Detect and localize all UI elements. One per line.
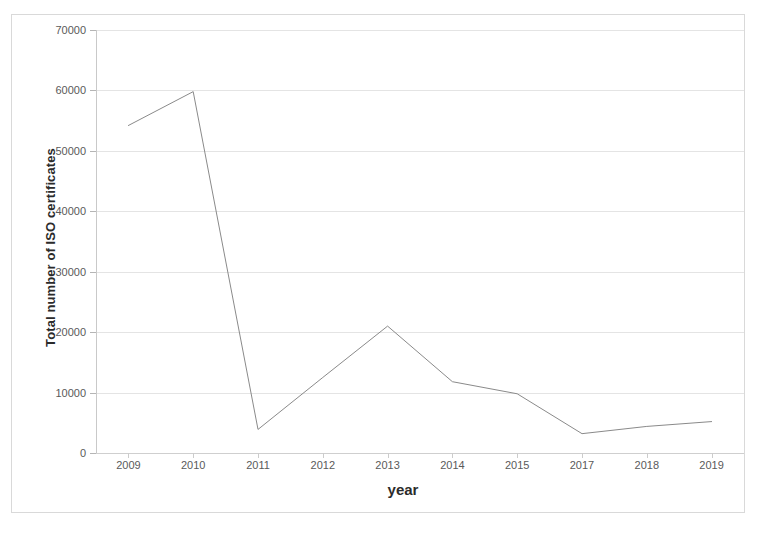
series-polyline-total-iso-certificates <box>128 92 711 434</box>
x-tick-label-2010: 2010 <box>158 459 228 471</box>
y-tick-label: 10000 <box>16 387 86 399</box>
x-tick-label-2017: 2017 <box>547 459 617 471</box>
x-tick-mark-2018 <box>647 453 648 458</box>
x-tick-label-2014: 2014 <box>417 459 487 471</box>
x-tick-mark-2011 <box>258 453 259 458</box>
x-tick-mark-2010 <box>193 453 194 458</box>
x-tick-mark-2015 <box>517 453 518 458</box>
y-axis-title: Total number of ISO certificates <box>43 88 58 408</box>
x-tick-mark-2017 <box>582 453 583 458</box>
y-tick-label: 60000 <box>16 84 86 96</box>
x-tick-mark-2009 <box>128 453 129 458</box>
y-tick-label: 50000 <box>16 145 86 157</box>
x-tick-label-2012: 2012 <box>288 459 358 471</box>
x-tick-label-2011: 2011 <box>223 459 293 471</box>
x-tick-label-2013: 2013 <box>353 459 423 471</box>
x-tick-label-2009: 2009 <box>93 459 163 471</box>
y-tick-label: 70000 <box>16 24 86 36</box>
y-tick-mark-0 <box>90 453 96 454</box>
x-tick-mark-2014 <box>452 453 453 458</box>
x-tick-mark-2012 <box>323 453 324 458</box>
y-tick-label: 0 <box>16 447 86 459</box>
y-tick-label: 40000 <box>16 205 86 217</box>
x-tick-label-2015: 2015 <box>482 459 552 471</box>
x-axis-title: year <box>96 481 710 498</box>
y-tick-label: 30000 <box>16 266 86 278</box>
x-tick-mark-2019 <box>712 453 713 458</box>
x-tick-mark-2013 <box>388 453 389 458</box>
data-series-line <box>96 30 744 453</box>
x-tick-label-2019: 2019 <box>677 459 747 471</box>
y-tick-label: 20000 <box>16 326 86 338</box>
chart-figure: Total number of ISO certificates year 01… <box>0 0 771 540</box>
x-tick-label-2018: 2018 <box>612 459 682 471</box>
